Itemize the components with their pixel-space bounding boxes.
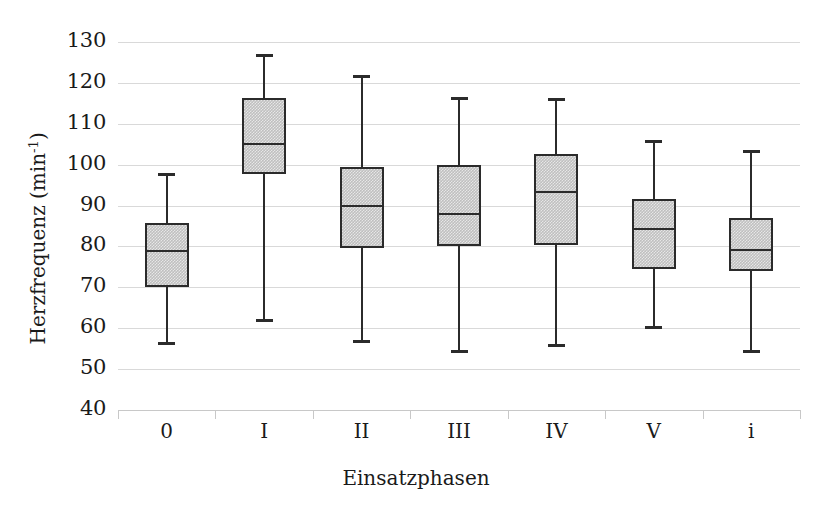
x-tick-label-i: i [702,419,800,443]
x-tick-mark [215,410,216,419]
x-tick-label-IV: IV [507,419,605,443]
upper-whisker-cap [743,150,760,153]
x-axis-line [118,410,800,411]
y-axis-title: Herzfrequenz (min-1) [26,108,51,368]
y-axis-tick-labels: 130120110100908070605040 [48,0,106,513]
y-tick-label: 60 [48,314,106,338]
median-line [729,249,773,251]
x-tick-mark [703,410,704,419]
y-tick-label: 70 [48,273,106,297]
y-axis-title-exponent: -1 [26,140,41,153]
y-tick-label: 100 [48,151,106,175]
x-tick-label-III: III [410,419,508,443]
chart-container: Herzfrequenz (min-1) 1301201101009080706… [0,0,832,513]
y-tick-label: 120 [48,69,106,93]
lower-whisker [750,271,752,353]
y-tick-label: 110 [48,110,106,134]
y-axis-title-tail: ) [26,132,50,140]
box-iqr [729,218,773,271]
y-tick-label: 80 [48,232,106,256]
x-tick-mark [605,410,606,419]
plot-area [118,42,800,410]
x-tick-label-II: II [313,419,411,443]
lower-whisker-cap [743,350,760,353]
y-tick-label: 130 [48,28,106,52]
upper-whisker [750,150,752,217]
x-tick-label-V: V [605,419,703,443]
y-tick-label: 50 [48,355,106,379]
x-tick-label-I: I [215,419,313,443]
y-axis-title-text: Herzfrequenz (min [26,153,50,345]
x-tick-mark [800,410,801,419]
y-tick-label: 90 [48,192,106,216]
x-tick-label-0: 0 [118,419,216,443]
x-tick-mark [508,410,509,419]
x-axis-title: Einsatzphasen [0,466,832,490]
x-tick-mark [118,410,119,419]
boxplot-i [118,42,800,410]
x-tick-mark [313,410,314,419]
y-tick-label: 40 [48,396,106,420]
x-tick-mark [410,410,411,419]
